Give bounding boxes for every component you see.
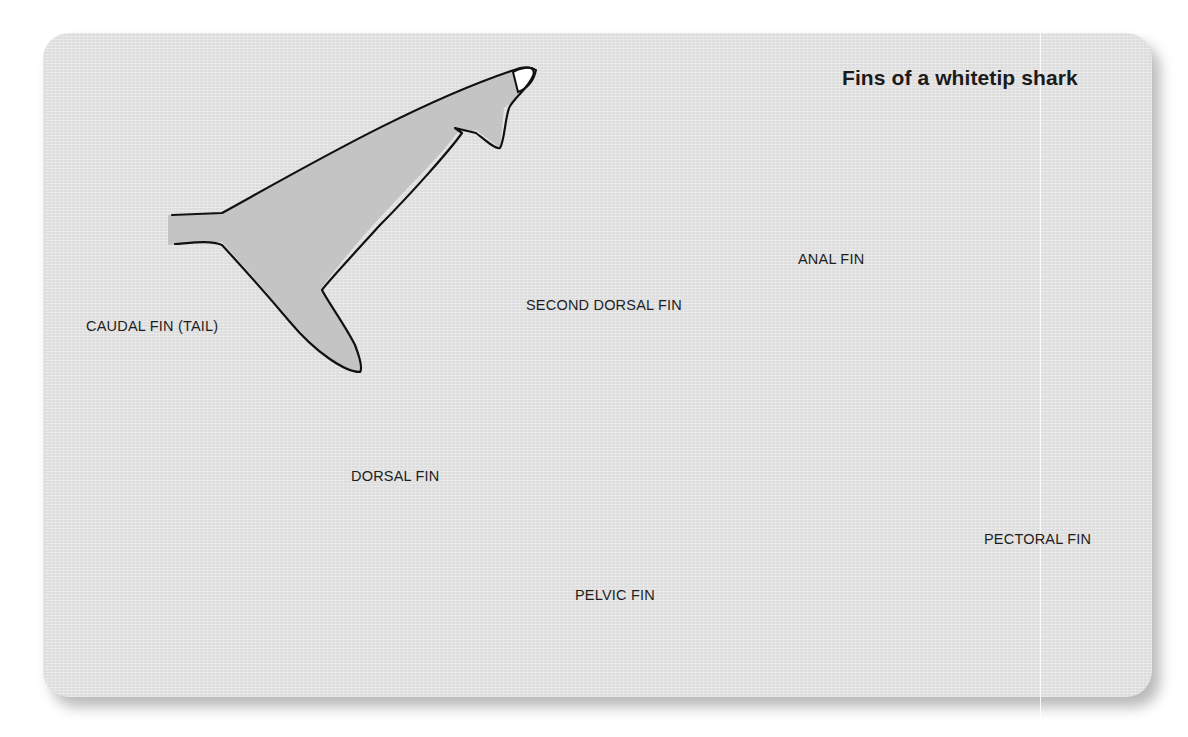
caudal-fin-label: CAUDAL FIN (TAIL) (86, 318, 218, 334)
diagram-title: Fins of a whitetip shark (842, 66, 1078, 90)
second-dorsal-fin-label: SECOND DORSAL FIN (526, 297, 682, 313)
pectoral-fin-label: PECTORAL FIN (984, 531, 1091, 547)
anal-fin-label: ANAL FIN (798, 251, 864, 267)
fins-illustration (0, 0, 1188, 737)
caudal-fin-drawing (168, 67, 536, 372)
dorsal-fin-label: DORSAL FIN (351, 468, 439, 484)
pelvic-fin-label: PELVIC FIN (575, 587, 655, 603)
image-seam-line (1040, 0, 1041, 737)
